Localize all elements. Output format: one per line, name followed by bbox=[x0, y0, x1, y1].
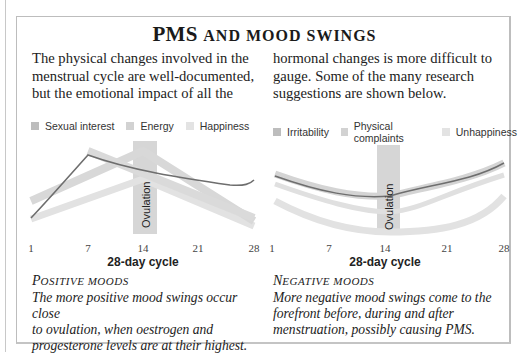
svg-text:14: 14 bbox=[138, 242, 150, 254]
svg-text:7: 7 bbox=[326, 242, 332, 254]
caption-heading-negative: NEGATIVE MOODS bbox=[273, 273, 513, 289]
svg-text:21: 21 bbox=[193, 242, 204, 254]
ovulation-label: Ovulation bbox=[140, 182, 152, 228]
x-axis-label: 28-day cycle bbox=[349, 255, 421, 269]
chart-positive: Ovulation 1 7 14 21 28 28-day cycle bbox=[28, 141, 260, 269]
svg-text:7: 7 bbox=[85, 242, 91, 254]
ovulation-label: Ovulation bbox=[383, 184, 395, 230]
caption-heading-positive: POSITIVE MOODS bbox=[32, 273, 262, 289]
svg-text:21: 21 bbox=[442, 242, 453, 254]
svg-text:14: 14 bbox=[380, 242, 392, 254]
svg-text:28: 28 bbox=[499, 242, 511, 254]
chart-negative: Ovulation 1 7 14 21 28 28-day cycle bbox=[269, 145, 510, 269]
caption-body-negative: More negative mood swings come to the fo… bbox=[273, 290, 513, 338]
svg-text:1: 1 bbox=[28, 242, 34, 254]
caption-body-positive: The more positive mood swings occur clos… bbox=[32, 290, 262, 354]
svg-text:28: 28 bbox=[249, 242, 261, 254]
svg-text:1: 1 bbox=[269, 242, 275, 254]
x-axis-label: 28-day cycle bbox=[107, 255, 179, 269]
